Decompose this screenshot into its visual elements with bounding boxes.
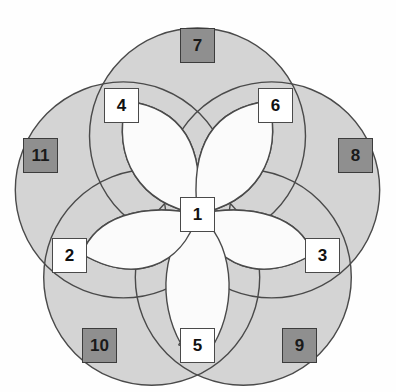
node-box-2[interactable]: 2 bbox=[52, 238, 87, 273]
node-box-10[interactable]: 10 bbox=[82, 328, 117, 363]
node-box-8[interactable]: 8 bbox=[338, 138, 373, 173]
node-label-7: 7 bbox=[193, 37, 202, 54]
node-label-1: 1 bbox=[193, 206, 202, 223]
node-label-4: 4 bbox=[117, 97, 126, 114]
node-box-9[interactable]: 9 bbox=[282, 328, 317, 363]
node-label-3: 3 bbox=[318, 247, 327, 264]
node-label-11: 11 bbox=[32, 147, 50, 164]
node-box-4[interactable]: 4 bbox=[104, 88, 139, 123]
node-box-7[interactable]: 7 bbox=[180, 28, 215, 63]
node-box-5[interactable]: 5 bbox=[180, 328, 215, 363]
node-box-1[interactable]: 1 bbox=[180, 197, 215, 232]
diagram-canvas: 1 2 3 4 5 6 7 8 9 10 11 bbox=[0, 0, 396, 392]
node-label-5: 5 bbox=[193, 337, 202, 354]
node-label-8: 8 bbox=[351, 147, 360, 164]
node-label-9: 9 bbox=[295, 337, 304, 354]
node-label-2: 2 bbox=[65, 247, 74, 264]
node-box-3[interactable]: 3 bbox=[305, 238, 340, 273]
node-label-10: 10 bbox=[90, 337, 109, 354]
node-box-6[interactable]: 6 bbox=[258, 88, 293, 123]
node-label-6: 6 bbox=[271, 97, 280, 114]
node-box-11[interactable]: 11 bbox=[23, 138, 58, 173]
